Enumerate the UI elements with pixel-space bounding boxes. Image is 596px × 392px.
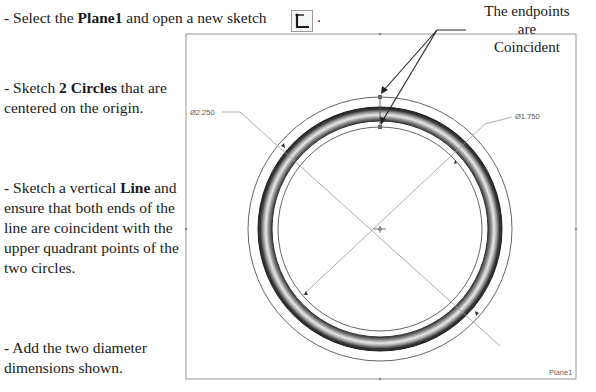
inner-diameter-label: Ø1.750: [515, 112, 540, 121]
inner-diameter-line: [302, 124, 485, 296]
endpoint-bottom: [378, 125, 382, 129]
endpoint-top: [378, 95, 382, 99]
sketch-drawing: Plane1 Ø2.250 Ø1.750: [0, 0, 596, 392]
plane1-border: [186, 34, 576, 379]
outer-diameter-label: Ø2.250: [190, 108, 215, 117]
plane1-label: Plane1: [549, 368, 572, 377]
